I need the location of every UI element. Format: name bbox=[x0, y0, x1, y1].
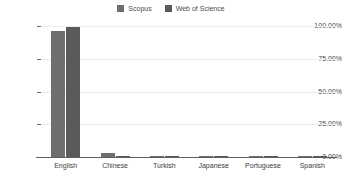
legend-swatch-scopus bbox=[117, 5, 124, 12]
gridline bbox=[41, 124, 337, 125]
x-axis-tick-label: Portuguese bbox=[245, 161, 281, 170]
x-axis-line bbox=[36, 157, 337, 158]
chart-legend: Scopus Web of Science bbox=[0, 4, 342, 13]
bar-group bbox=[101, 26, 130, 157]
legend-label-web-of-science: Web of Science bbox=[176, 4, 225, 13]
plot-area bbox=[41, 26, 337, 157]
x-axis-tick-label: Chinese bbox=[102, 161, 128, 170]
bar[interactable] bbox=[66, 27, 80, 157]
x-axis-tick-label: Turkish bbox=[153, 161, 176, 170]
gridline bbox=[41, 92, 337, 93]
bar-chart: Scopus Web of Science 0.00%25.00%50.00%7… bbox=[0, 0, 342, 179]
legend-swatch-web-of-science bbox=[165, 5, 172, 12]
gridline bbox=[41, 26, 337, 27]
legend-label-scopus: Scopus bbox=[128, 4, 151, 13]
x-axis-tick-label: Japanese bbox=[198, 161, 228, 170]
gridline bbox=[41, 59, 337, 60]
bar-group bbox=[51, 26, 80, 157]
bar[interactable] bbox=[51, 31, 65, 157]
bar-group bbox=[249, 26, 278, 157]
bar-group bbox=[150, 26, 179, 157]
x-axis-tick-label: English bbox=[54, 161, 77, 170]
legend-item-scopus[interactable]: Scopus bbox=[117, 4, 151, 13]
legend-item-web-of-science[interactable]: Web of Science bbox=[165, 4, 225, 13]
bar-group bbox=[298, 26, 327, 157]
bar-group bbox=[199, 26, 228, 157]
x-axis-tick-label: Spanish bbox=[300, 161, 325, 170]
